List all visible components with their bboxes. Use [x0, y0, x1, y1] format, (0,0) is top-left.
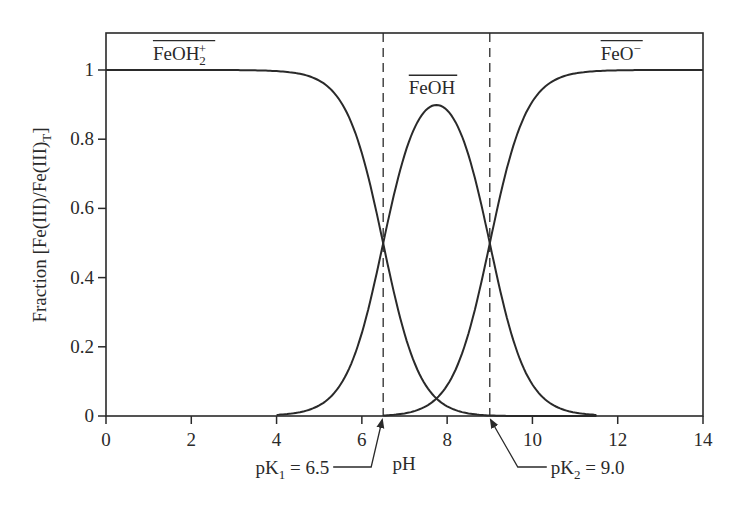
species-label-main: FeO: [601, 43, 634, 64]
x-axis-ticks: 02468101214: [101, 416, 713, 450]
x-tick-label: 4: [272, 429, 282, 450]
x-tick-label: 12: [608, 429, 627, 450]
x-tick-label: 2: [187, 429, 197, 450]
species-label-main: FeOH: [409, 77, 456, 98]
pk1-label-part: = 6.5: [285, 457, 329, 478]
pk2-label-part: pK: [551, 457, 575, 478]
y-axis-ticks: 00.20.40.60.81: [70, 59, 106, 426]
species-label: FeO−: [601, 41, 641, 64]
x-tick-label: 8: [442, 429, 452, 450]
pk-annotations: pK1 = 6.5pK2 = 9.0: [255, 420, 624, 482]
y-tick-label: 0.6: [70, 197, 94, 218]
y-tick-label: 0.2: [70, 336, 94, 357]
species-label-sup: −: [633, 41, 640, 56]
y-tick-label: 0.8: [70, 128, 94, 149]
pk2-label-part: = 9.0: [581, 457, 625, 478]
curve-feoh: [277, 105, 597, 415]
x-tick-label: 10: [523, 429, 542, 450]
x-tick-label: 14: [694, 429, 714, 450]
curve-feo: [383, 70, 703, 416]
y-axis-title-sub: T: [39, 134, 54, 142]
y-axis-title-close: ]: [29, 127, 50, 133]
species-label: FeOH2+: [153, 41, 206, 68]
plot-border: [106, 33, 703, 416]
y-tick-label: 0.4: [70, 267, 94, 288]
x-axis-title: pH: [392, 453, 416, 474]
plot-frame: [106, 33, 703, 416]
pk1-label: pK1 = 6.5: [255, 457, 329, 482]
pk1-label-part: pK: [255, 457, 279, 478]
species-label-sup: +: [199, 41, 206, 56]
speciation-chart: 00.20.40.60.81 02468101214 FeOH2+FeOHFeO…: [0, 0, 738, 505]
species-label: FeOH: [409, 77, 456, 98]
y-axis-title-main: Fraction [Fe(III)/Fe(III): [29, 142, 51, 323]
pk2-label: pK2 = 9.0: [551, 457, 625, 482]
x-tick-label: 6: [357, 429, 367, 450]
x-tick-label: 0: [101, 429, 111, 450]
y-tick-label: 0: [85, 405, 95, 426]
species-curves: [106, 70, 703, 416]
species-label-main: FeOH: [153, 43, 200, 64]
y-tick-label: 1: [85, 59, 95, 80]
y-axis-title: Fraction [Fe(III)/Fe(III)T]: [29, 127, 54, 322]
